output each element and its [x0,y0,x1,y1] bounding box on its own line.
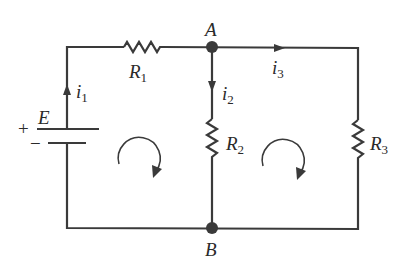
node-a-label: A [205,20,217,39]
resistor-r3 [353,120,363,160]
node-b-label: B [205,240,217,259]
r1-label: R1 [129,62,147,84]
arrow-i3-icon [274,44,285,52]
source-e-label: E [38,108,50,127]
resistor-r2 [207,119,217,160]
i1-label: i1 [76,82,88,104]
plus-sign: + [18,119,29,138]
loop-arrowhead-1-icon [152,165,162,178]
r2-label: R2 [226,134,244,156]
resistor-r1 [124,42,163,52]
wire-top [163,47,358,120]
node-a [206,41,218,53]
node-b [206,222,218,234]
loop-arrowhead-2-icon [296,167,306,180]
arrow-i2-icon [208,81,216,92]
i2-label: i2 [222,84,234,106]
r3-label: R3 [370,134,388,156]
i3-label: i3 [272,58,284,80]
arrow-i1-icon [63,84,71,95]
minus-sign: − [30,134,41,153]
circuit-diagram [0,0,407,266]
